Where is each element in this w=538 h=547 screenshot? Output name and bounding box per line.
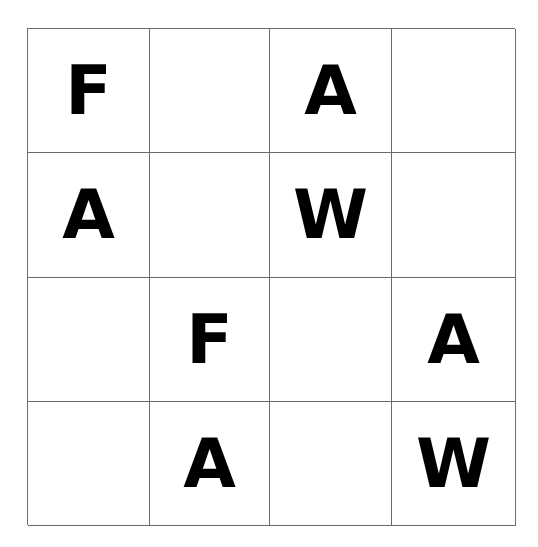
cell-r3-c4: A [392,278,516,402]
cell-r4-c3 [270,402,392,526]
cell-r3-c3 [270,278,392,402]
cell-r4-c1 [28,402,150,526]
cell-r2-c2 [150,153,270,278]
cell-r3-c2: F [150,278,270,402]
cell-r2-c1: A [28,153,150,278]
cell-r2-c3: W [270,153,392,278]
cell-r3-c1 [28,278,150,402]
cell-r1-c4 [392,29,516,153]
cell-r1-c3: A [270,29,392,153]
cell-r1-c1: F [28,29,150,153]
cell-r1-c2 [150,29,270,153]
cell-r4-c2: A [150,402,270,526]
cell-r4-c4: W [392,402,516,526]
letter-grid: F A A W F A A W [27,28,515,525]
cell-r2-c4 [392,153,516,278]
